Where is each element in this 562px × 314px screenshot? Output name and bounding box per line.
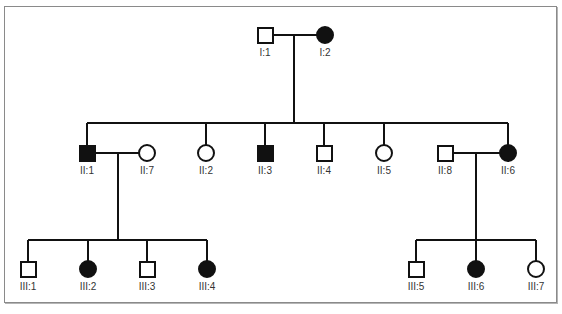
individual-II5-female-unaffected [376,145,392,161]
individual-II7-female-unaffected [139,145,155,161]
label-II8: II:8 [438,165,452,176]
label-II7: II:7 [140,165,154,176]
individual-III4-female-affected [199,261,215,277]
generation-1-lines [87,35,508,145]
label-III2: III:2 [80,281,97,292]
label-II2: II:2 [199,165,213,176]
label-II4: II:4 [317,165,331,176]
individual-I2-female-affected [317,27,333,43]
individual-III1-male-unaffected [21,262,36,277]
individual-II3-male-affected [258,146,273,161]
individual-III5-male-unaffected [409,262,424,277]
label-III1: III:1 [20,281,37,292]
label-III7: III:7 [528,281,545,292]
label-III5: III:5 [408,281,425,292]
individual-II4-male-unaffected [317,146,332,161]
individual-III7-female-unaffected [528,261,544,277]
label-II6: II:6 [501,165,515,176]
individual-III6-female-affected [468,261,484,277]
label-III6: III:6 [468,281,485,292]
label-I1: I:1 [259,47,271,58]
individual-II6-female-affected [500,145,516,161]
label-III3: III:3 [139,281,156,292]
individual-I1-male-unaffected [258,28,273,43]
label-II3: II:3 [258,165,272,176]
label-III4: III:4 [199,281,216,292]
individual-III2-female-affected [80,261,96,277]
individual-III3-male-unaffected [140,262,155,277]
label-II5: II:5 [377,165,391,176]
generation-2-lines [28,153,536,261]
label-I2: I:2 [319,47,331,58]
label-II1: II:1 [80,165,94,176]
individual-II1-male-affected [80,146,95,161]
individual-II8-male-unaffected [438,146,453,161]
individual-II2-female-unaffected [198,145,214,161]
pedigree-chart: I:1 I:2 II:1 II:7 II:2 II:3 II:4 II:5 II… [0,0,562,314]
